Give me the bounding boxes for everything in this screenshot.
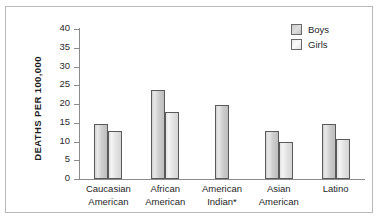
x-axis-category-label-line: Latino [323,183,349,196]
bar-chart-figure: DEATHS PER 100,000 4035302520151050 Cauc… [0,0,379,223]
y-axis-tick-label: 0 [10,172,70,183]
bar-boys [151,90,165,179]
bar-group: CaucasianAmerican [80,29,137,179]
y-axis-tick-mark [74,160,79,161]
bar-girls [279,142,293,179]
y-axis-tick-mark [74,142,79,143]
y-axis-tick-label: 35 [10,41,70,52]
bar-boys [322,124,336,180]
y-axis-tick-mark [74,48,79,49]
bar-group: AfricanAmerican [137,29,194,179]
legend-item-girls: Girls [291,37,329,51]
x-axis-category-label-line: Caucasian [86,183,131,196]
x-axis-category-label-line: American [145,196,185,209]
y-axis-tick-mark [74,67,79,68]
x-axis-category-label-line: American [86,196,131,209]
x-axis-line [79,179,365,180]
bar-boys [215,105,229,179]
x-axis-category-label: AfricanAmerican [145,183,185,208]
bar-group: AmericanIndian* [194,29,251,179]
y-axis-tick-mark [74,104,79,105]
y-axis-tick-mark [74,179,79,180]
y-axis-tick-label: 5 [10,153,70,164]
x-axis-category-label: AsianAmerican [259,183,299,208]
x-axis-category-label: AmericanIndian* [202,183,242,208]
y-axis-title: DEATHS PER 100,000 [32,29,43,189]
y-axis-tick-label: 15 [10,116,70,127]
bar-girls [108,131,122,179]
y-axis-tick-mark [74,123,79,124]
x-axis-category-label: CaucasianAmerican [86,183,131,208]
x-axis-category-label-line: African [145,183,185,196]
chart-legend: BoysGirls [291,22,329,52]
y-axis-tick-label: 20 [10,97,70,108]
x-axis-category-label-line: Asian [259,183,299,196]
legend-item-boys: Boys [291,22,329,36]
legend-swatch-boys [291,24,302,35]
legend-label: Boys [308,24,329,35]
y-axis-tick-label: 40 [10,22,70,33]
y-axis-tick-label: 30 [10,60,70,71]
y-axis-tick-label: 25 [10,78,70,89]
bar-boys [265,131,279,179]
chart-frame: DEATHS PER 100,000 4035302520151050 Cauc… [5,6,373,213]
bar-girls [336,139,350,179]
y-axis-tick-mark [74,29,79,30]
y-axis-tick-mark [74,85,79,86]
y-axis-tick-label: 10 [10,135,70,146]
bar-girls [165,112,179,179]
legend-swatch-girls [291,39,302,50]
x-axis-category-label-line: American [202,183,242,196]
x-axis-category-label-line: Indian* [202,196,242,209]
x-axis-category-label: Latino [323,183,349,196]
bar-boys [94,124,108,180]
legend-label: Girls [308,39,328,50]
x-axis-category-label-line: American [259,196,299,209]
